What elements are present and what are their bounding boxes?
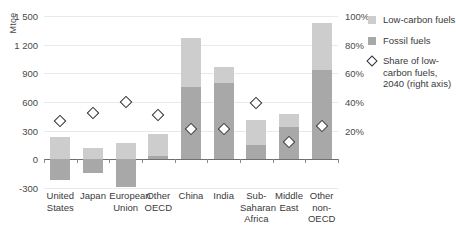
bar-segment-low-carbon[interactable] [214, 67, 234, 83]
y-axis-tick-label-right: 40% [345, 97, 364, 108]
legend-item[interactable]: Low-carbon fuels [368, 14, 456, 26]
x-axis-category-label: India [207, 190, 240, 202]
x-axis-tick-mark [240, 159, 241, 163]
bar-group[interactable] [181, 16, 201, 188]
chart-container: Mtoe 1 5001 2009006003000-300100%80%60%4… [0, 0, 456, 229]
bar-segment-low-carbon[interactable] [148, 134, 168, 156]
bar-segment-fossil[interactable] [246, 145, 266, 159]
x-axis-tick-mark [142, 159, 143, 163]
x-axis-category-label: United States [44, 190, 77, 213]
y-axis-title-left: Mtoe [8, 2, 18, 44]
bar-segment-low-carbon[interactable] [181, 38, 201, 88]
bar-group[interactable] [279, 16, 299, 188]
y-axis-tick-label-left: -300 [19, 183, 38, 194]
x-axis-tick-mark [207, 159, 208, 163]
bar-segment-low-carbon[interactable] [116, 143, 136, 159]
bar-group[interactable] [214, 16, 234, 188]
gridline [44, 188, 338, 189]
x-axis-category-label: Other non-OECD [305, 190, 338, 225]
bar-segment-low-carbon[interactable] [50, 137, 70, 159]
y-axis-tick-label-right: 100% [345, 11, 369, 22]
y-axis-tick-label-left: 1 200 [14, 39, 38, 50]
bar-segment-fossil[interactable] [312, 70, 332, 159]
bar-group[interactable] [148, 16, 168, 188]
x-axis-tick-mark [175, 159, 176, 163]
square-swatch-icon [368, 37, 376, 45]
y-axis-tick-label-left: 600 [22, 97, 38, 108]
bar-segment-fossil[interactable] [148, 156, 168, 159]
x-axis-tick-mark [44, 159, 45, 163]
x-axis-category-label: Middle East [273, 190, 306, 213]
legend-item-label: Low-carbon fuels [383, 14, 456, 26]
bar-segment-fossil[interactable] [116, 159, 136, 187]
x-axis-category-label: Japan [77, 190, 110, 202]
legend-item[interactable]: Share of low-carbon fuels, 2040 (right a… [368, 55, 456, 90]
bar-segment-low-carbon[interactable] [279, 114, 299, 126]
y-axis-tick-label-left: 1 500 [14, 11, 38, 22]
diamond-marker-icon [366, 55, 377, 66]
x-axis-category-label: European Union [109, 190, 142, 213]
bar-segment-low-carbon[interactable] [312, 23, 332, 70]
x-axis-tick-mark [273, 159, 274, 163]
x-axis-category-label: China [175, 190, 208, 202]
plot-area: 1 5001 2009006003000-300100%80%60%40%20% [44, 16, 338, 188]
y-axis-tick-label-left: 300 [22, 125, 38, 136]
x-axis-tick-mark [109, 159, 110, 163]
bar-group[interactable] [50, 16, 70, 188]
square-swatch-icon [368, 16, 376, 24]
x-axis-labels: United StatesJapanEuropean UnionOther OE… [44, 190, 338, 229]
legend-item-label: Fossil fuels [383, 35, 456, 47]
bar-segment-low-carbon[interactable] [83, 148, 103, 159]
bar-group[interactable] [83, 16, 103, 188]
chart-legend: Low-carbon fuelsFossil fuelsShare of low… [368, 14, 456, 99]
x-axis-tick-mark [338, 159, 339, 163]
x-axis-category-label: Other OECD [142, 190, 175, 213]
x-axis-tick-mark [305, 159, 306, 163]
legend-item[interactable]: Fossil fuels [368, 35, 456, 47]
y-axis-tick-label-left: 0 [33, 154, 38, 165]
x-axis-tick-mark [77, 159, 78, 163]
x-axis-category-label: Sub-Saharan Africa [240, 190, 273, 225]
y-axis-tick-label-right: 60% [345, 68, 364, 79]
y-axis-tick-label-left: 900 [22, 68, 38, 79]
bar-group[interactable] [312, 16, 332, 188]
y-axis-tick-label-right: 20% [345, 125, 364, 136]
bar-segment-low-carbon[interactable] [246, 120, 266, 145]
bar-segment-fossil[interactable] [50, 159, 70, 180]
y-axis-tick-label-right: 80% [345, 39, 364, 50]
legend-item-label: Share of low-carbon fuels, 2040 (right a… [383, 55, 456, 90]
bar-segment-fossil[interactable] [83, 159, 103, 173]
